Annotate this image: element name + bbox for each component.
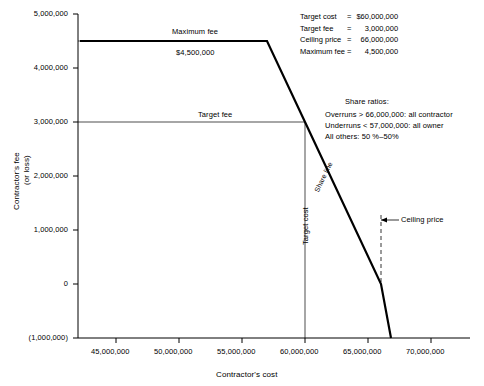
- target-cost-label: Target cost: [301, 207, 310, 245]
- y-tick-label-negative-1000000: (1,000,000): [8, 333, 68, 342]
- x-axis-title: Contractor's cost: [216, 370, 277, 379]
- maximum-fee-label: Maximum fee: [172, 27, 218, 36]
- param-label-maximum-fee: Maximum fee: [300, 47, 347, 59]
- y-tick-label-0: 0: [18, 279, 68, 288]
- table-row: Maximum fee = 4,500,000: [300, 47, 400, 59]
- y-tick-label-5000000: 5,000,000: [18, 9, 68, 18]
- param-value-target-fee: 3,000,000: [353, 24, 400, 36]
- share-ratios-line-overruns: Overruns > 66,000,000: all contractor: [325, 110, 453, 119]
- y-tick-label-3000000: 3,000,000: [18, 117, 68, 126]
- ceiling-price-label: Ceiling price: [401, 215, 444, 224]
- x-tick-label-70000000: 70,000,000: [406, 347, 445, 356]
- table-row: Target cost = $60,000,000: [300, 12, 400, 24]
- x-tick-label-65000000: 65,000,000: [343, 347, 382, 356]
- table-row: Ceiling price = 66,000,000: [300, 35, 400, 47]
- y-axis-title-line1: Contractor's fee: [12, 152, 21, 210]
- target-fee-label: Target fee: [198, 110, 232, 119]
- y-tick-label-1000000: 1,000,000: [18, 225, 68, 234]
- share-ratios-line-all-others: All others: 50 %–50%: [325, 132, 399, 141]
- x-tick-label-55000000: 55,000,000: [217, 347, 256, 356]
- y-tick-marks: [73, 14, 78, 338]
- share-ratios-title: Share ratios:: [345, 97, 389, 106]
- ceiling-price-arrowhead: [381, 218, 387, 223]
- fee-profile-line: [80, 41, 391, 338]
- param-label-ceiling-price: Ceiling price: [300, 35, 347, 47]
- param-value-ceiling-price: 66,000,000: [353, 35, 400, 47]
- x-tick-label-60000000: 60,000,000: [280, 347, 319, 356]
- param-label-target-fee: Target fee: [300, 24, 347, 36]
- share-ratios-line-underruns: Underruns < 57,000,000: all owner: [325, 121, 444, 130]
- param-value-maximum-fee: 4,500,000: [353, 47, 400, 59]
- y-tick-label-4000000: 4,000,000: [18, 63, 68, 72]
- y-axis-title-line2: (or loss): [22, 155, 31, 185]
- chart-canvas: [0, 0, 484, 386]
- x-tick-marks: [116, 338, 431, 343]
- x-tick-label-45000000: 45,000,000: [91, 347, 130, 356]
- maximum-fee-value-label: $4,500,000: [176, 48, 215, 57]
- parameters-table: Target cost = $60,000,000 Target fee = 3…: [300, 12, 400, 58]
- chart-figure: 5,000,000 4,000,000 3,000,000 2,000,000 …: [0, 0, 484, 386]
- param-value-target-cost: $60,000,000: [353, 12, 400, 24]
- x-tick-label-50000000: 50,000,000: [154, 347, 193, 356]
- param-label-target-cost: Target cost: [300, 12, 347, 24]
- table-row: Target fee = 3,000,000: [300, 24, 400, 36]
